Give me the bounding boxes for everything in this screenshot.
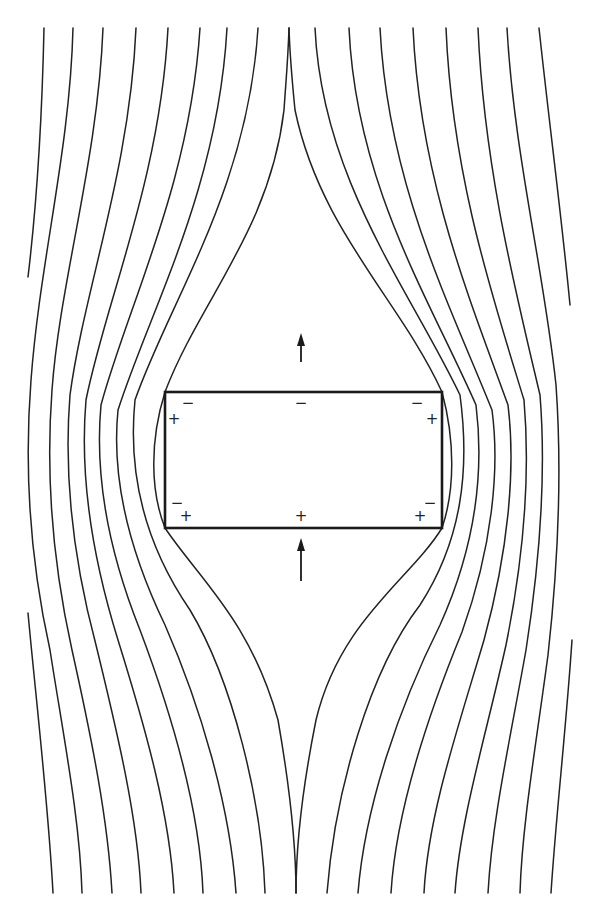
field-line-left-2 <box>50 28 112 893</box>
field-diagram: −+−−+−++−+ <box>0 0 592 905</box>
charge-top-right-minus: − <box>411 394 424 412</box>
charge-bottom-center-plus: + <box>295 507 308 525</box>
arrow-up-bottom-icon <box>297 538 305 581</box>
field-line-right-edge-bottom <box>551 640 572 893</box>
field-line-left-5 <box>99 28 203 893</box>
arrow-up-top-icon <box>297 333 305 362</box>
arrowhead-up-icon <box>297 333 305 346</box>
field-line-right-6 <box>349 28 479 893</box>
field-lines-group <box>28 28 572 893</box>
field-line-right-3 <box>446 28 526 893</box>
field-line-right-edge-top <box>539 28 570 305</box>
field-line-left-3 <box>68 28 141 893</box>
charge-top-left-minus: − <box>182 394 195 412</box>
charge-top-center-minus: − <box>295 394 308 412</box>
arrowhead-up-icon <box>297 538 305 551</box>
field-line-left-4 <box>84 28 174 893</box>
force-arrows-group <box>297 333 305 581</box>
charge-top-left-plus: + <box>168 410 181 428</box>
field-line-right-1 <box>507 28 559 893</box>
charge-bottom-left-plus: + <box>180 507 193 525</box>
field-line-left-edge-bottom <box>28 613 53 893</box>
field-line-left-1 <box>28 28 82 893</box>
field-line-right-4 <box>413 28 511 893</box>
charge-bottom-right-plus: + <box>414 507 427 525</box>
field-line-left-8 <box>154 28 296 893</box>
field-line-left-edge-top <box>28 28 44 277</box>
charge-top-right-plus: + <box>426 410 439 428</box>
surface-charges-group: −+−−+−++−+ <box>168 394 439 525</box>
